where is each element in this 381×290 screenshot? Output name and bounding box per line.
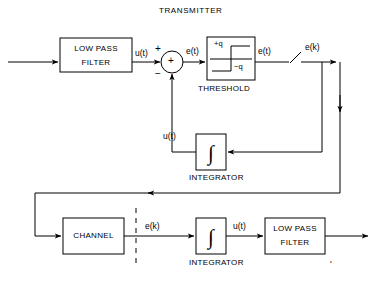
- signal-label-e-prime-t: e'(t): [258, 47, 271, 56]
- integrator-transmitter-symbol: ∫: [196, 140, 226, 166]
- signal-u-prime-t-rx-rest: (t): [238, 221, 246, 231]
- sampler-switch-blade: [290, 52, 301, 63]
- signal-label-u-prime-t-transmitter: u'(t): [163, 132, 176, 141]
- low-pass-filter-transmitter-label-line2: FILTER: [60, 58, 132, 68]
- low-pass-filter-receiver-label-line2: FILTER: [265, 238, 325, 248]
- signal-label-u-prime-t-receiver: u'(t): [233, 222, 246, 231]
- summing-junction-symbol: +: [168, 56, 174, 66]
- signal-label-e-t: e(t): [186, 47, 199, 56]
- integrator-receiver-symbol: ∫: [196, 224, 226, 250]
- signal-label-e-prime-k-transmitter: e'(k): [305, 43, 320, 52]
- signal-u-prime-t-tx-dot: ': [330, 260, 332, 269]
- signal-label-e-prime-k-receiver: e'(k): [145, 222, 160, 231]
- signal-e-prime-k-rx-rest: (k): [150, 221, 160, 231]
- threshold-plus-q-label: +q: [214, 40, 223, 48]
- threshold-minus-q-label: −q: [234, 63, 243, 71]
- signal-label-u-t: u(t): [135, 49, 148, 58]
- low-pass-filter-receiver-label-line1: LOW PASS: [265, 224, 325, 234]
- threshold-caption: THRESHOLD: [198, 85, 250, 93]
- summing-junction-plus-sign: +: [155, 44, 161, 54]
- integrator-receiver-caption: INTEGRATOR: [189, 259, 244, 267]
- signal-e-prime-k-tx-rest: (k): [310, 42, 320, 52]
- diagram-title: TRANSMITTER: [159, 7, 223, 15]
- signal-u-prime-t-tx-rest: (t): [168, 131, 176, 141]
- summing-junction-minus-sign: −: [155, 69, 161, 79]
- signal-e-prime-t-rest: (t): [263, 46, 271, 56]
- low-pass-filter-transmitter-label-line1: LOW PASS: [60, 44, 132, 54]
- channel-label: CHANNEL: [63, 231, 124, 241]
- integrator-transmitter-caption: INTEGRATOR: [189, 174, 244, 182]
- signal-e-prime-t-base: e: [258, 47, 263, 56]
